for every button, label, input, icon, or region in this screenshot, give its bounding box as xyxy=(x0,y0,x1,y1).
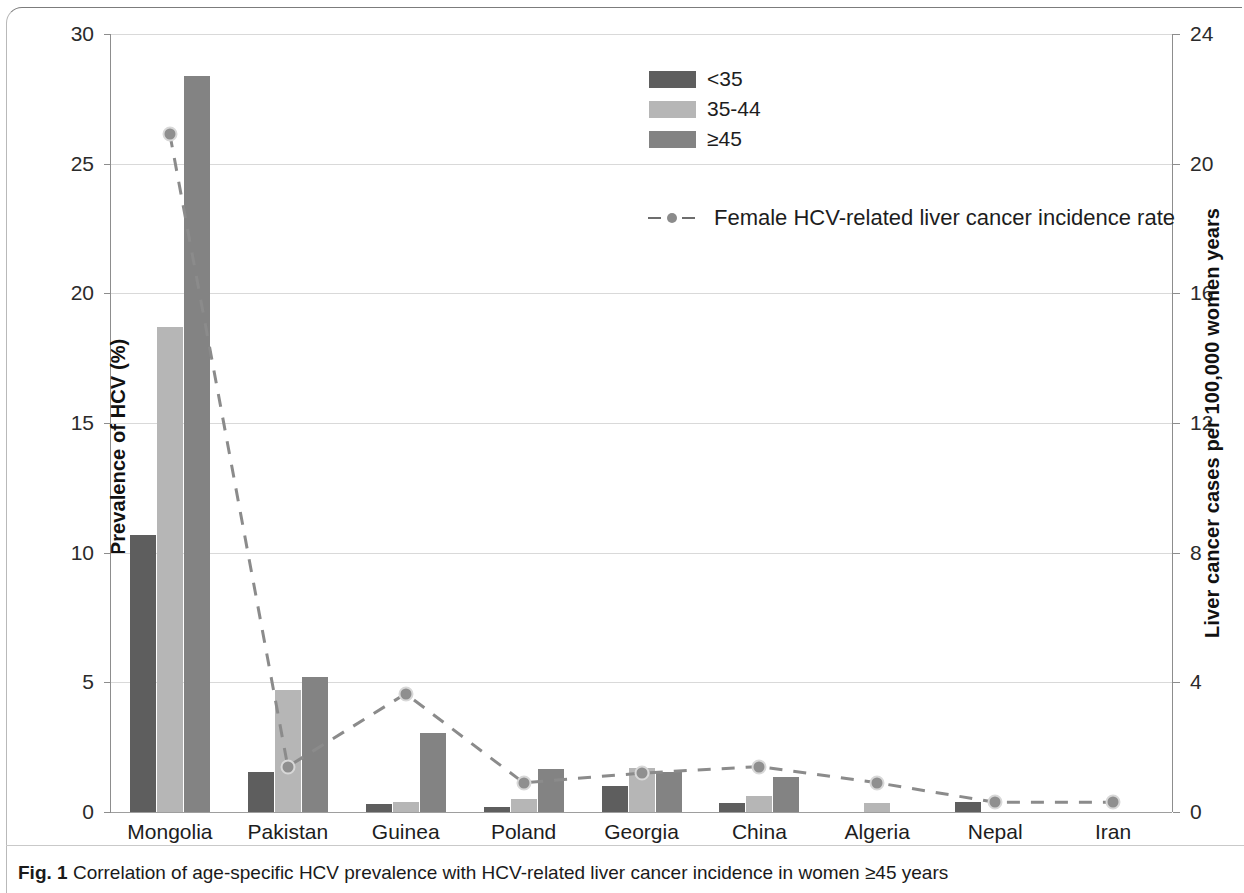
incidence-data-point xyxy=(752,759,767,774)
figure-container: 05101520253004812162024 Prevalence of HC… xyxy=(0,0,1244,893)
x-axis-label: China xyxy=(732,820,787,844)
left-axis-tick-label: 30 xyxy=(71,23,94,44)
left-axis-tick-label: 20 xyxy=(71,282,94,303)
figure-number: Fig. 1 xyxy=(18,862,68,883)
legend-swatch-icon xyxy=(649,131,696,148)
left-axis-tick-label: 25 xyxy=(71,153,94,174)
left-axis-tick-label: 0 xyxy=(82,801,94,822)
right-axis-tick xyxy=(1173,682,1180,683)
left-axis-tick-label: 10 xyxy=(71,542,94,563)
figure-caption: Fig. 1 Correlation of age-specific HCV p… xyxy=(18,862,948,884)
left-axis-tick-label: 5 xyxy=(82,671,94,692)
right-axis-tick xyxy=(1173,812,1180,813)
gridline xyxy=(111,812,1172,813)
x-axis-label: Mongolia xyxy=(127,820,212,844)
x-axis-label: Pakistan xyxy=(248,820,329,844)
right-axis-tick-label: 0 xyxy=(1190,801,1202,822)
left-axis-tick xyxy=(104,293,111,294)
legend-entry: ≥45 xyxy=(649,126,761,152)
incidence-data-point xyxy=(1106,795,1121,810)
x-axis-label: Poland xyxy=(491,820,556,844)
dashed-line-icon xyxy=(648,211,704,225)
caption-divider xyxy=(6,845,1244,846)
incidence-data-point xyxy=(870,775,885,790)
incidence-data-point xyxy=(162,127,177,142)
incidence-line-svg xyxy=(111,34,1172,812)
right-axis-tick xyxy=(1173,423,1180,424)
legend-label: 35-44 xyxy=(707,97,761,121)
incidence-data-point xyxy=(280,759,295,774)
legend-line-entry: Female HCV-related liver cancer incidenc… xyxy=(648,205,1175,231)
right-axis-title: Liver cancer cases per 100,000 women yea… xyxy=(1201,113,1224,733)
legend-label: ≥45 xyxy=(707,127,742,151)
right-axis-tick xyxy=(1173,553,1180,554)
plot-area xyxy=(111,34,1172,812)
x-axis-label: Guinea xyxy=(372,820,440,844)
x-axis-label: Nepal xyxy=(968,820,1023,844)
legend-label: <35 xyxy=(707,67,743,91)
x-axis-label: Algeria xyxy=(845,820,910,844)
incidence-data-point xyxy=(398,686,413,701)
legend-swatch-icon xyxy=(649,71,696,88)
legend-entry: 35-44 xyxy=(649,96,761,122)
incidence-data-point xyxy=(634,766,649,781)
incidence-line-layer xyxy=(111,34,1172,812)
figure-caption-text: Correlation of age-specific HCV prevalen… xyxy=(73,862,948,883)
left-axis-tick-label: 15 xyxy=(71,412,94,433)
right-axis-tick xyxy=(1173,293,1180,294)
legend-swatch-icon xyxy=(649,101,696,118)
left-axis-tick xyxy=(104,164,111,165)
right-axis-tick xyxy=(1173,164,1180,165)
x-axis-label: Georgia xyxy=(604,820,679,844)
right-axis-title-wrap: Liver cancer cases per 100,000 women yea… xyxy=(1202,34,1236,812)
right-axis-tick xyxy=(1173,34,1180,35)
left-axis-tick xyxy=(104,682,111,683)
left-axis-tick xyxy=(104,34,111,35)
left-axis-tick xyxy=(104,812,111,813)
incidence-line-path xyxy=(170,135,1113,803)
legend-line-label: Female HCV-related liver cancer incidenc… xyxy=(714,205,1175,231)
legend-entry: <35 xyxy=(649,66,761,92)
incidence-data-point xyxy=(516,775,531,790)
incidence-data-point xyxy=(988,795,1003,810)
legend-bars: <3535-44≥45 xyxy=(649,66,761,156)
x-axis-label: Iran xyxy=(1095,820,1131,844)
